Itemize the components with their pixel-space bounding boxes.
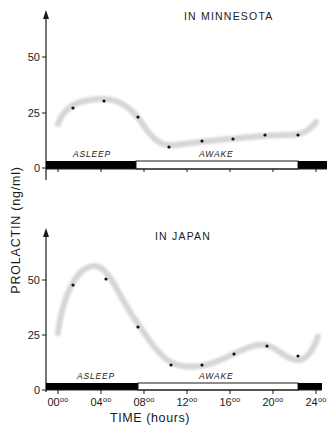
fitted-curve [58,266,318,367]
x-tick-label: 24⁰⁰ [305,396,327,408]
panel-title: IN JAPAN [155,230,211,242]
y-tick-label: 50 [28,274,40,286]
x-ticks [58,390,316,394]
asleep-label: ASLEEP [72,149,111,159]
asleep-label: ASLEEP [76,371,115,381]
awake-label: AWAKE [198,149,233,159]
y-tick-label: 25 [28,107,40,119]
panel-minnesota: IN MINNESOTA 0 25 50 ASLEEP AWAKE [28,10,327,180]
x-tick-label: 20⁰⁰ [262,396,284,408]
x-tick-label: 08⁰⁰ [133,396,155,408]
panel-title: IN MINNESOTA [184,10,273,22]
x-tick-label: 00⁰⁰ [47,396,69,408]
sleep-bar [46,161,136,169]
figure-canvas: PROLACTIN (ng/ml) IN MINNESOTA 0 25 50 [0,0,332,431]
y-tick-label: 25 [28,329,40,341]
x-tick-label: 04⁰⁰ [90,396,112,408]
wake-bar [138,383,298,390]
x-tick-label: 16⁰⁰ [219,396,241,408]
panel-japan: IN JAPAN 0 25 50 ASLEEP AWAKE [28,228,327,425]
x-tick-label: 12⁰⁰ [176,396,198,408]
wake-bar [136,161,298,169]
y-tick-label: 0 [34,162,40,174]
data-points [71,277,299,366]
y-tick-label: 50 [28,51,40,63]
y-axis-arrow-icon [43,228,49,237]
x-axis-label: TIME (hours) [110,411,190,425]
x-tick-labels: 00⁰⁰ 04⁰⁰ 08⁰⁰ 12⁰⁰ 16⁰⁰ 20⁰⁰ 24⁰⁰ [47,396,327,408]
awake-label: AWAKE [198,371,233,381]
sleep-bar [298,161,327,169]
y-tick-label: 0 [34,384,40,396]
fitted-curve [58,99,316,145]
sleep-bar [46,383,138,390]
y-axis-arrow-icon [43,10,49,19]
y-axis-label: PROLACTIN (ng/ml) [9,166,23,294]
sleep-bar [298,383,322,390]
